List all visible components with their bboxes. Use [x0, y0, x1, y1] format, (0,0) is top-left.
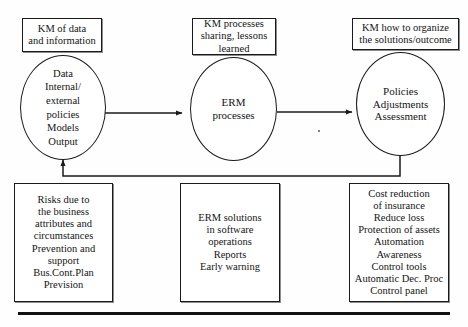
outcome-line: Early warning	[200, 261, 260, 273]
outcome-line: in software	[207, 224, 254, 236]
process-ellipse-data-inputs: Data Internal/ external policies Models …	[20, 55, 106, 160]
outcome-line: Reports	[214, 249, 247, 261]
outcome-line: Bus.Cont.Plan	[33, 267, 94, 279]
outcome-line: Reduce loss	[374, 212, 424, 224]
outcome-line: Risks due to	[38, 194, 90, 206]
caption-box-km-organize: KM how to organize the solutions/outcome	[352, 18, 459, 50]
process-line: Adjustments	[373, 98, 429, 111]
caption-line: learned	[219, 43, 250, 55]
outcome-line: operations	[208, 236, 252, 248]
outcome-line: Control tools	[371, 261, 426, 273]
caption-line: and information	[28, 35, 95, 47]
outcome-line: Automation	[374, 236, 424, 248]
outcome-line: support	[48, 255, 80, 267]
caption-box-km-data: KM of data and information	[22, 18, 102, 52]
process-ellipse-policies-outcomes: Policies Adjustments Assessment	[356, 52, 445, 156]
outcome-line: the business	[38, 206, 89, 218]
caption-box-km-processes: KM processes sharing, lessons learned	[192, 18, 276, 55]
process-line: Assessment	[375, 110, 427, 123]
caption-line: sharing, lessons	[201, 30, 268, 42]
outcome-line: ERM solutions	[198, 212, 261, 224]
outcome-line: of insurance	[373, 200, 425, 212]
process-line: external	[46, 94, 80, 108]
process-line: Data	[53, 67, 73, 81]
outcome-box-erm-solutions: ERM solutions in software operations Rep…	[180, 183, 280, 302]
caption-line: KM of data	[38, 23, 86, 35]
outcome-line: Prevision	[44, 279, 84, 291]
caption-line: the solutions/outcome	[359, 34, 451, 46]
outcome-box-benefits: Cost reduction of insurance Reduce loss …	[349, 183, 449, 302]
outcome-line: Control panel	[370, 285, 427, 297]
process-line: Models	[47, 121, 79, 135]
process-line: Policies	[383, 85, 418, 98]
process-line: ERM	[222, 96, 246, 109]
process-line: Internal/	[45, 80, 81, 94]
outcome-line: Protection of assets	[358, 224, 440, 236]
process-ellipse-erm-processes: ERM processes	[190, 57, 277, 161]
process-line: policies	[47, 108, 80, 122]
process-line: processes	[212, 109, 254, 122]
outcome-line: Awareness	[376, 249, 421, 261]
outcome-line: Automatic Dec. Proc	[355, 273, 443, 285]
scan-artifact-speck	[318, 130, 320, 132]
outcome-line: attributes and	[35, 218, 92, 230]
outcome-box-risks: Risks due to the business attributes and…	[14, 183, 113, 302]
outcome-line: Cost reduction	[368, 188, 430, 200]
caption-line: KM how to organize	[362, 22, 449, 34]
outcome-line: Prevention and	[32, 243, 95, 255]
diagram-canvas: KM of data and information KM processes …	[0, 0, 468, 327]
outcome-line: circumstances	[34, 230, 93, 242]
process-line: Output	[48, 135, 77, 149]
caption-line: KM processes	[204, 18, 264, 30]
bottom-rule	[18, 312, 450, 315]
